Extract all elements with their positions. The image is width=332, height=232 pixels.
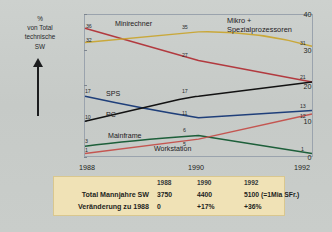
value-pc-1990: 17 (182, 88, 188, 94)
chart-plot-area: 0 10 20 30 40 1988 1990 1992 Minirechner… (70, 14, 313, 174)
series-label-minirechner: Minirechner (115, 20, 152, 28)
series-label-mainframe: Mainframe (108, 132, 142, 140)
value-workstation-1988: 1 (85, 147, 88, 153)
table-header-row: 1988 1990 1992 (54, 179, 284, 190)
up-arrow-shaft (37, 64, 39, 116)
table-header-1990: 1990 (197, 179, 211, 186)
y-axis-title-line-3: technische (11, 32, 69, 41)
value-mainframe-1992: 1 (301, 146, 304, 152)
table-cell-mannjahre-1990: 4400 (197, 191, 212, 198)
x-tick-1992: 1992 (294, 163, 310, 172)
value-pc-1988: 10 (85, 114, 91, 120)
summary-table: 1988 1990 1992 Total Mannjahre SW 3750 4… (53, 176, 285, 216)
y-tick-mark-0 (84, 157, 87, 158)
table-cell-mannjahre-1992: 5100 (=1Mia SFr.) (244, 191, 299, 198)
y-axis-title-line-2: von Total (11, 23, 69, 32)
y-axis-title-line-4: SW (11, 42, 69, 51)
table-cell-veraenderung-1988: 0 (157, 203, 161, 210)
y-axis-title-line-1: % (11, 14, 69, 23)
series-label-mikro-line2: Spezialprozessoren (227, 26, 292, 35)
table-cell-veraenderung-1992: +36% (244, 203, 262, 210)
value-minirechner-1990: 27 (182, 52, 188, 58)
y-axis-title: % von Total technische SW (11, 14, 69, 51)
x-tick-1990: 1990 (188, 163, 204, 172)
table-cell-mannjahre-1988: 3750 (157, 191, 172, 198)
series-line-minirechner (85, 28, 312, 82)
value-mainframe-1990: 6 (183, 127, 186, 133)
value-workstation-1992: 12 (300, 113, 306, 119)
series-label-sps: SPS (106, 90, 120, 98)
value-mainframe-1988: 3 (85, 138, 88, 144)
value-sps-1988: 17 (85, 88, 91, 94)
value-minirechner-1988: 36 (86, 23, 92, 29)
table-header-1992: 1992 (244, 179, 258, 186)
value-sps-1990: 11 (182, 110, 187, 116)
series-label-pc: PC (106, 111, 116, 119)
table-cell-veraenderung-1990: +17% (197, 203, 215, 210)
value-workstation-1990: 5 (183, 141, 186, 147)
value-mikro-1992: 31 (300, 40, 306, 46)
table-row-label-mannjahre: Total Mannjahre SW (59, 191, 149, 199)
series-line-sps (85, 96, 312, 117)
table-row: Total Mannjahre SW 3750 4400 5100 (=1Mia… (54, 191, 284, 202)
value-mikro-1988: 32 (86, 37, 92, 43)
series-line-pc (85, 82, 312, 121)
value-mikro-1990: 35 (182, 24, 188, 30)
value-sps-1992: 13 (300, 103, 306, 109)
value-minirechner-1992: 21 (300, 74, 306, 80)
x-tick-1988: 1988 (79, 163, 95, 172)
table-row: Veränderung zu 1988 0 +17% +36% (54, 203, 284, 214)
table-row-label-veraenderung: Veränderung zu 1988 (59, 203, 149, 211)
table-header-1988: 1988 (157, 179, 171, 186)
